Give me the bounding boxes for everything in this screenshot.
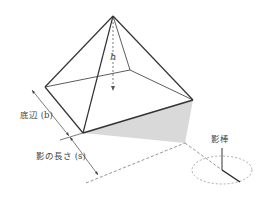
height-arrowhead-icon <box>111 86 115 91</box>
shadow-projection-line <box>86 143 185 183</box>
base-edge-back-right <box>130 70 193 100</box>
height-label: h <box>110 51 116 62</box>
rod-label: 影棒 <box>211 134 229 144</box>
pyramid-shadow-diagram: h 底辺 (b) 影の長さ (s) 影棒 <box>0 0 272 205</box>
base-label: 底辺 (b) <box>20 110 53 120</box>
rod-shadow <box>222 170 240 182</box>
lateral-edge-right <box>113 16 193 100</box>
base-edge-back-left <box>45 70 130 87</box>
lateral-edge-left <box>45 16 113 87</box>
shadow-length-label: 影の長さ (s) <box>36 151 86 161</box>
pyramid-shadow <box>83 100 193 143</box>
